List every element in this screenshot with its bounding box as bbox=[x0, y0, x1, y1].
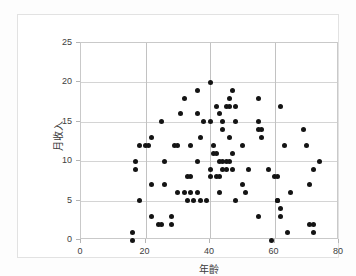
scatter-point bbox=[311, 167, 316, 172]
scatter-point bbox=[137, 143, 142, 148]
scatter-point bbox=[217, 174, 222, 179]
scatter-point bbox=[233, 119, 238, 124]
scatter-point bbox=[220, 127, 225, 132]
gridline-horizontal bbox=[81, 201, 337, 202]
x-tick-mark bbox=[338, 239, 339, 243]
scatter-point bbox=[259, 135, 264, 140]
x-axis-title: 年齡 bbox=[80, 261, 338, 276]
scatter-point bbox=[275, 174, 280, 179]
scatter-point bbox=[162, 159, 167, 164]
gridline-horizontal bbox=[81, 161, 337, 162]
scatter-point bbox=[311, 230, 316, 235]
scatter-point bbox=[169, 214, 174, 219]
scatter-point bbox=[282, 143, 287, 148]
x-tick-mark bbox=[145, 239, 146, 243]
scatter-point bbox=[185, 198, 190, 203]
scatter-point bbox=[146, 143, 151, 148]
x-tick-label: 20 bbox=[139, 246, 149, 256]
scatter-point bbox=[307, 182, 312, 187]
gridline-vertical bbox=[210, 43, 211, 238]
y-tick-label: 10 bbox=[62, 155, 72, 165]
scatter-point bbox=[227, 96, 232, 101]
scatter-point bbox=[233, 198, 238, 203]
scatter-point bbox=[233, 104, 238, 109]
scatter-point bbox=[214, 104, 219, 109]
scatter-point bbox=[256, 96, 261, 101]
scatter-point bbox=[162, 182, 167, 187]
scatter-point bbox=[201, 119, 206, 124]
scatter-point bbox=[133, 159, 138, 164]
scatter-point bbox=[130, 238, 135, 243]
y-tick-mark bbox=[76, 81, 80, 82]
scatter-point bbox=[311, 222, 316, 227]
scatter-point bbox=[211, 143, 216, 148]
scatter-point bbox=[285, 230, 290, 235]
scatter-point bbox=[227, 135, 232, 140]
scatter-point bbox=[230, 151, 235, 156]
gridline-vertical bbox=[275, 43, 276, 238]
gridline-vertical bbox=[146, 43, 147, 238]
scatter-point bbox=[246, 167, 251, 172]
scatter-point bbox=[259, 127, 264, 132]
x-tick-mark bbox=[274, 239, 275, 243]
scatter-point bbox=[278, 104, 283, 109]
scatter-point bbox=[217, 111, 222, 116]
scatter-point bbox=[195, 159, 200, 164]
scatter-point bbox=[227, 104, 232, 109]
scatter-point bbox=[195, 190, 200, 195]
scatter-point bbox=[278, 206, 283, 211]
scatter-point bbox=[195, 111, 200, 116]
scatter-point bbox=[224, 167, 229, 172]
scatter-point bbox=[149, 182, 154, 187]
scatter-point bbox=[175, 190, 180, 195]
scatter-point bbox=[230, 167, 235, 172]
y-tick-mark bbox=[76, 200, 80, 201]
x-tick-mark bbox=[209, 239, 210, 243]
scatter-point bbox=[169, 222, 174, 227]
y-tick-label: 20 bbox=[62, 76, 72, 86]
scatter-point bbox=[191, 198, 196, 203]
scatter-point bbox=[204, 198, 209, 203]
scatter-point bbox=[133, 167, 138, 172]
scatter-point bbox=[220, 119, 225, 124]
scatter-point bbox=[208, 167, 213, 172]
scatter-point bbox=[149, 135, 154, 140]
scatter-point bbox=[137, 198, 142, 203]
scatter-point bbox=[301, 127, 306, 132]
screenshot-root: 月收入 年齡 0510152025 020406080 bbox=[0, 0, 356, 276]
scatter-point bbox=[149, 214, 154, 219]
scatter-point bbox=[208, 119, 213, 124]
x-tick-mark bbox=[80, 239, 81, 243]
y-tick-label: 0 bbox=[67, 234, 72, 244]
scatter-point bbox=[256, 119, 261, 124]
x-tick-label: 80 bbox=[333, 246, 343, 256]
scatter-point bbox=[159, 119, 164, 124]
scatter-plot-area bbox=[80, 42, 338, 239]
scatter-point bbox=[256, 214, 261, 219]
scatter-point bbox=[217, 190, 222, 195]
scatter-point bbox=[182, 96, 187, 101]
scatter-point bbox=[208, 80, 213, 85]
scatter-point bbox=[182, 190, 187, 195]
scatter-point bbox=[230, 88, 235, 93]
scatter-point bbox=[188, 143, 193, 148]
scatter-point bbox=[178, 111, 183, 116]
scatter-point bbox=[198, 198, 203, 203]
y-tick-mark bbox=[76, 42, 80, 43]
scatter-point bbox=[175, 143, 180, 148]
scatter-point bbox=[275, 198, 280, 203]
scatter-point bbox=[240, 182, 245, 187]
scatter-point bbox=[130, 230, 135, 235]
y-tick-label: 15 bbox=[62, 116, 72, 126]
chart-frame: 月收入 年齡 0510152025 020406080 bbox=[17, 14, 339, 258]
y-tick-mark bbox=[76, 160, 80, 161]
scatter-point bbox=[214, 151, 219, 156]
scatter-point bbox=[304, 143, 309, 148]
scatter-point bbox=[240, 143, 245, 148]
scatter-point bbox=[266, 167, 271, 172]
scatter-point bbox=[317, 159, 322, 164]
y-tick-label: 5 bbox=[67, 195, 72, 205]
scatter-point bbox=[243, 190, 248, 195]
y-tick-label: 25 bbox=[62, 37, 72, 47]
scatter-point bbox=[188, 174, 193, 179]
